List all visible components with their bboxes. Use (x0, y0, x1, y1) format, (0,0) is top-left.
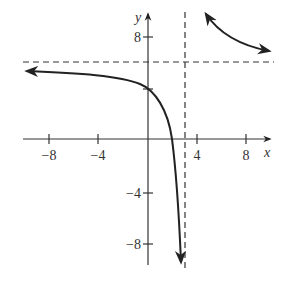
x-tick-label: −4 (91, 148, 106, 163)
y-tick-label: 8 (134, 30, 141, 45)
function-graph: −8 −4 4 8 x 8 −4 −8 y (0, 0, 284, 290)
x-axis-label: x (263, 145, 271, 160)
x-tick-label: 4 (194, 148, 201, 163)
y-axis-label: y (133, 10, 142, 25)
x-tick-label: −8 (42, 148, 57, 163)
y-tick-label: −8 (126, 237, 141, 252)
curve-left-branch (27, 71, 181, 262)
curve-right-branch (206, 14, 269, 51)
x-tick-label: 8 (243, 148, 250, 163)
y-tick-label: −4 (126, 186, 141, 201)
